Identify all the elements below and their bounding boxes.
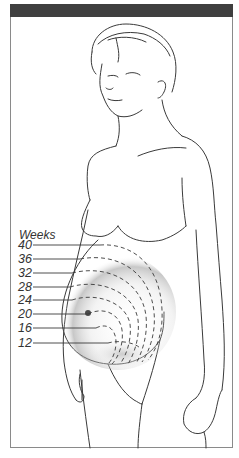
right-arm bbox=[196, 230, 205, 398]
week-label-32: 32 bbox=[18, 267, 32, 279]
right-breast bbox=[118, 226, 186, 241]
week-label-24: 24 bbox=[18, 294, 32, 306]
week-label-28: 28 bbox=[18, 281, 32, 293]
face-outline bbox=[100, 64, 142, 117]
right-hand bbox=[184, 390, 223, 434]
neck bbox=[116, 116, 119, 146]
week-label-16: 16 bbox=[18, 322, 32, 334]
week-label-36: 36 bbox=[18, 253, 32, 265]
hair-outline bbox=[92, 24, 176, 92]
left-breast bbox=[81, 200, 118, 237]
right-leg bbox=[138, 404, 142, 448]
week-label-20: 20 bbox=[18, 308, 32, 320]
left-leg bbox=[80, 370, 90, 448]
week-label-40: 40 bbox=[18, 239, 32, 251]
left-shoulder bbox=[87, 146, 116, 200]
week-label-12: 12 bbox=[18, 337, 32, 349]
